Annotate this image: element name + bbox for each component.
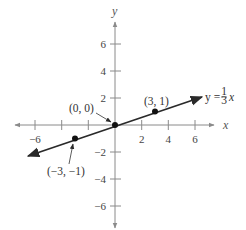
leader-arrow-neg3-neg1 [69, 144, 73, 164]
y-tick-label: −4 [94, 173, 106, 185]
y-tick-label: 4 [101, 65, 107, 77]
equation-label: y = 1 3 x [205, 85, 235, 106]
y-tick-label: 2 [101, 92, 107, 104]
leader-arrow-origin [96, 113, 111, 122]
y-tick-label: −2 [94, 146, 106, 158]
x-axis-label: x [222, 118, 229, 132]
point-3-1 [152, 109, 158, 115]
y-tick-label: 6 [101, 38, 107, 50]
x-tick-label: 4 [166, 133, 172, 145]
y-tick-label: −6 [94, 200, 106, 212]
point-neg3-neg1 [72, 136, 78, 142]
point-label-neg3-neg1: (−3, −1) [47, 165, 85, 178]
x-tick-label: −6 [29, 133, 41, 145]
coordinate-plane-figure: −6 2 4 6 6 4 2 −2 −4 −6 x y y = 1 3 x (0… [0, 0, 246, 230]
x-tick-label: 2 [139, 133, 145, 145]
y-axis-label: y [111, 4, 118, 18]
svg-text:3: 3 [221, 94, 227, 106]
svg-text:y =: y = [205, 91, 220, 104]
point-label-origin: (0, 0) [69, 102, 94, 115]
graph-svg: −6 2 4 6 6 4 2 −2 −4 −6 x y y = 1 3 x (0… [0, 0, 246, 230]
x-tick-label: 6 [192, 133, 198, 145]
point-origin [112, 122, 118, 128]
svg-text:x: x [228, 91, 235, 103]
point-label-3-1: (3, 1) [144, 95, 169, 108]
